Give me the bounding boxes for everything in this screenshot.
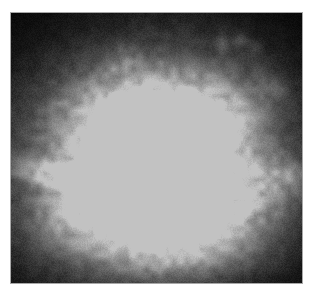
sky-image-canvas [11,13,302,283]
image-panel [10,12,303,284]
figure-viewer [0,0,316,298]
